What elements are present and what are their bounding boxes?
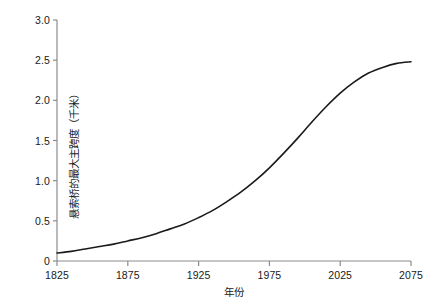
- y-axis-tick-label: 0.5: [22, 215, 50, 227]
- x-axis-tick-label: 1875: [116, 269, 140, 281]
- x-axis-tick-label: 1975: [258, 269, 282, 281]
- x-axis-tick-label: 1925: [187, 269, 211, 281]
- y-axis-tick-label: 2.5: [22, 54, 50, 66]
- x-axis-tick-label: 2025: [328, 269, 352, 281]
- data-line: [57, 62, 411, 253]
- y-axis-tick-label: 3.0: [22, 14, 50, 26]
- axis-ticks-group: [53, 20, 411, 266]
- x-axis-tick-label: 1825: [45, 269, 69, 281]
- y-axis-tick-label: 1.0: [22, 175, 50, 187]
- data-series-group: [57, 62, 411, 253]
- x-axis-tick-label: 2075: [399, 269, 423, 281]
- x-axis-title: 年份: [224, 284, 244, 299]
- y-axis-tick-label: 1.5: [22, 135, 50, 147]
- axes-group: [57, 20, 411, 261]
- y-axis-tick-label: 0: [22, 255, 50, 267]
- y-axis-title: 悬索桥的最大主跨度（千米）: [66, 89, 81, 219]
- chart-container: 00.51.01.52.02.53.0 18251875192519752025…: [0, 0, 434, 307]
- y-axis-tick-label: 2.0: [22, 94, 50, 106]
